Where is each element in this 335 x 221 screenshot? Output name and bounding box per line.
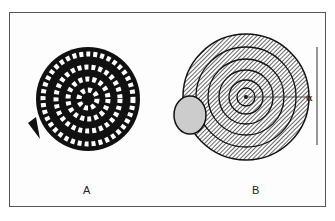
panel-label-a: A	[83, 184, 90, 196]
alpha-symbol: α	[306, 92, 313, 103]
shell-illustrations: α	[10, 13, 327, 208]
shell-b-icon: α	[174, 34, 317, 160]
panel-label-b: B	[252, 184, 259, 196]
figure-frame: α A B	[9, 12, 326, 207]
shell-a-icon	[28, 47, 140, 151]
